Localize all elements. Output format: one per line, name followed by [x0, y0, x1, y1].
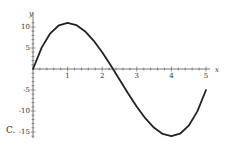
x-tick-label-3: 3	[135, 72, 139, 80]
x-axis-label: x	[215, 66, 219, 74]
x-tick-label-5: 5	[204, 72, 208, 80]
answer-choice-label: C.	[6, 125, 16, 135]
y-tick-label-5: 5	[26, 44, 30, 52]
x-tick-label-2: 2	[100, 72, 104, 80]
y-tick-label-neg15: -15	[19, 128, 30, 136]
y-tick-label-neg5: -5	[23, 86, 30, 94]
chart: 1 2 3 4 5 x y 10 5 -5 -10 -15 C.	[0, 0, 227, 145]
x-tick-label-4: 4	[169, 72, 174, 80]
x-tick-label-1: 1	[65, 72, 69, 80]
y-tick-label-neg10: -10	[19, 107, 30, 115]
y-tick-label-10: 10	[21, 23, 30, 31]
data-curve	[33, 23, 206, 136]
